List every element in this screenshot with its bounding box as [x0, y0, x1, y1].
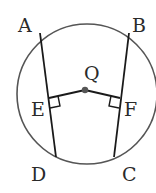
segment-qe: [49, 90, 85, 98]
label-d: D: [31, 163, 46, 185]
label-e: E: [31, 98, 45, 120]
label-a: A: [17, 14, 32, 36]
label-q: Q: [84, 62, 100, 84]
center-point-q: [82, 87, 88, 93]
geometry-diagram: A B C D E F Q: [0, 0, 156, 193]
chord-ad: [40, 33, 56, 157]
label-b: B: [132, 14, 146, 36]
segment-qf: [85, 90, 120, 98]
label-f: F: [124, 98, 137, 120]
label-c: C: [122, 163, 137, 185]
circle-chords-figure: A B C D E F Q: [0, 0, 156, 193]
circle: [17, 24, 156, 164]
chord-bc: [114, 33, 129, 157]
